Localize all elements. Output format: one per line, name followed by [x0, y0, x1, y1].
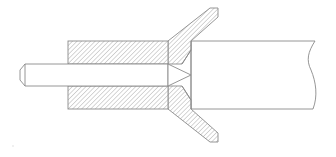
collar-lower [68, 86, 168, 109]
body-outline [191, 41, 316, 109]
pin [20, 64, 168, 86]
collar-upper [68, 41, 168, 64]
pin-tip [168, 64, 191, 86]
technical-drawing [0, 0, 336, 157]
stray-dot [12, 145, 14, 147]
